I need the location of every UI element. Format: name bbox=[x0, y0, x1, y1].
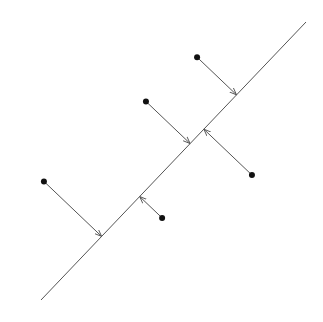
projection-line bbox=[41, 22, 306, 300]
data-point-p4 bbox=[249, 172, 255, 178]
projection-arrow-p5 bbox=[140, 197, 162, 218]
data-point-p3 bbox=[194, 54, 200, 60]
data-point-p5 bbox=[159, 215, 165, 221]
projection-diagram bbox=[0, 0, 323, 322]
projection-arrow-p3 bbox=[197, 57, 236, 95]
data-point-p1 bbox=[41, 178, 47, 184]
data-point-p2 bbox=[143, 98, 149, 104]
projection-arrow-p4 bbox=[204, 129, 252, 175]
projection-arrow-p2 bbox=[146, 101, 190, 143]
projection-arrow-p1 bbox=[44, 181, 102, 236]
